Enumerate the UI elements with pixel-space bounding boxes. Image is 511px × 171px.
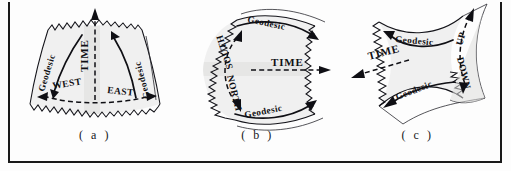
- caption-a: ( a ): [10, 128, 180, 143]
- panel-a: Geodesic Geodesic TIME WEST EAST ( a ): [10, 0, 180, 160]
- panel-b-diagram: Geodesic Geodesic SOUTH NORTH TIME: [175, 0, 340, 140]
- label-time-b: TIME: [271, 56, 304, 68]
- panel-a-diagram: Geodesic Geodesic TIME WEST EAST: [10, 0, 180, 140]
- surface-outline-upper-right-c: [463, 4, 487, 16]
- panel-c-diagram: Geodesic Geodesic UP DOWN TIME: [335, 0, 500, 140]
- label-up-c: UP: [453, 30, 467, 46]
- frame-right-rule: [500, 2, 502, 163]
- panel-b: Geodesic Geodesic SOUTH NORTH TIME ( b ): [175, 0, 340, 160]
- time-arrowhead-a: [91, 8, 99, 20]
- frame-bottom-rule: [8, 161, 502, 163]
- time-arrowhead-b: [319, 66, 331, 74]
- torn-edge-left-c: [373, 22, 386, 106]
- caption-b: ( b ): [175, 128, 340, 143]
- up-arrowhead-c: [465, 8, 474, 22]
- panel-c: Geodesic Geodesic UP DOWN TIME ( c ): [335, 0, 500, 160]
- surface-outline-lower-left-c: [379, 106, 403, 124]
- figure-container: Geodesic Geodesic TIME WEST EAST ( a ): [0, 0, 511, 171]
- time-arrowhead-c: [351, 69, 365, 78]
- label-time-a: TIME: [78, 39, 90, 72]
- caption-c: ( c ): [335, 128, 500, 143]
